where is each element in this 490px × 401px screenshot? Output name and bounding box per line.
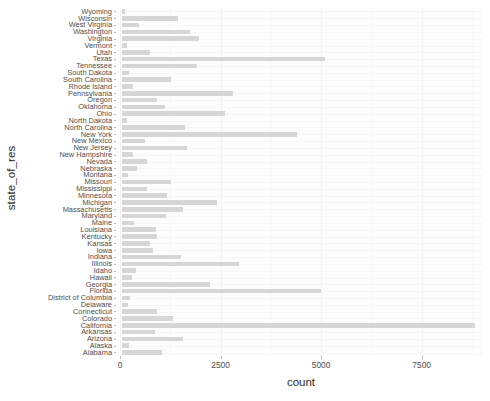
bar-row [122, 337, 483, 342]
bar-row [122, 16, 483, 21]
bar-row [122, 214, 483, 219]
bar-row [122, 275, 483, 280]
bar-oklahoma [122, 105, 165, 110]
bar-georgia [122, 282, 211, 287]
y-tick-mark [114, 114, 117, 115]
bar-minnesota [122, 193, 168, 198]
bar-row [122, 303, 483, 308]
y-tick-mark [114, 216, 117, 217]
x-tick-label: 2500 [211, 360, 230, 370]
bar-rhode-island [122, 84, 133, 89]
bar-row [122, 77, 483, 82]
y-tick-mark [114, 59, 117, 60]
bar-colorado [122, 316, 173, 321]
bar-chart: state_of_res WyomingWisconsinWest Virgin… [0, 0, 490, 401]
bar-nebraska [122, 166, 138, 171]
bar-montana [122, 173, 129, 178]
bar-kansas [122, 241, 150, 246]
y-tick-mark [114, 18, 117, 19]
bar-row [122, 23, 483, 28]
y-tick-mark [114, 209, 117, 210]
y-tick-mark [114, 202, 117, 203]
bar-iowa [122, 248, 154, 253]
y-tick-mark [114, 346, 117, 347]
y-tick-mark [114, 120, 117, 121]
bar-south-dakota [122, 71, 129, 76]
bar-row [122, 125, 483, 130]
y-tick-mark [114, 189, 117, 190]
x-tick-label: 0 [118, 360, 123, 370]
bar-row [122, 323, 483, 328]
y-axis-title-text: state_of_res [5, 146, 17, 211]
y-tick-mark [114, 32, 117, 33]
x-tick-mark [120, 356, 121, 359]
bar-row [122, 84, 483, 89]
bar-new-york [122, 132, 298, 137]
bar-row [122, 200, 483, 205]
bar-row [122, 36, 483, 41]
bar-kentucky [122, 234, 157, 239]
y-tick-mark [114, 25, 117, 26]
bar-louisiana [122, 227, 157, 232]
y-tick-mark [114, 352, 117, 353]
y-tick-mark [114, 264, 117, 265]
bar-washington [122, 30, 190, 35]
bar-row [122, 64, 483, 69]
bar-idaho [122, 268, 136, 273]
bar-south-carolina [122, 77, 171, 82]
y-tick-mark [114, 182, 117, 183]
bar-row [122, 316, 483, 321]
bar-row [122, 227, 483, 232]
bar-north-carolina [122, 125, 186, 130]
bar-row [122, 207, 483, 212]
y-tick-mark [114, 311, 117, 312]
bar-vermont [122, 43, 127, 48]
bar-row [122, 234, 483, 239]
bar-row [122, 268, 483, 273]
x-tick-mark [221, 356, 222, 359]
y-tick-mark [114, 148, 117, 149]
bar-row [122, 309, 483, 314]
bar-row [122, 180, 483, 185]
bar-virginia [122, 36, 200, 41]
bar-missouri [122, 180, 172, 185]
x-tick-label: 5000 [312, 360, 331, 370]
bar-row [122, 282, 483, 287]
bar-row [122, 241, 483, 246]
bar-row [122, 105, 483, 110]
x-axis-title: count [120, 376, 482, 388]
bar-row [122, 173, 483, 178]
y-tick-mark [114, 39, 117, 40]
bar-ohio [122, 111, 225, 116]
bar-row [122, 139, 483, 144]
bar-row [122, 9, 483, 14]
bar-west-virginia [122, 23, 139, 28]
bar-maryland [122, 214, 166, 219]
bar-arizona [122, 337, 183, 342]
bar-row [122, 221, 483, 226]
bar-row [122, 248, 483, 253]
bar-north-dakota [122, 118, 127, 123]
plot-panel [120, 8, 482, 356]
y-tick-mark [114, 318, 117, 319]
y-tick-mark [114, 141, 117, 142]
bar-new-jersey [122, 146, 187, 151]
bar-row [122, 255, 483, 260]
x-tick-label: 7500 [412, 360, 431, 370]
bar-row [122, 159, 483, 164]
bar-row [122, 350, 483, 355]
bar-row [122, 98, 483, 103]
bar-arkansas [122, 330, 156, 335]
bar-row [122, 91, 483, 96]
bar-oregon [122, 98, 158, 103]
y-tick-mark [114, 305, 117, 306]
bar-alabama [122, 350, 162, 355]
y-tick-mark [114, 107, 117, 108]
bar-hawaii [122, 275, 133, 280]
bar-new-hampshire [122, 152, 134, 157]
bar-tennessee [122, 64, 198, 69]
y-tick-mark [114, 223, 117, 224]
y-tick-mark [114, 243, 117, 244]
bar-utah [122, 50, 150, 55]
y-tick-mark [114, 127, 117, 128]
